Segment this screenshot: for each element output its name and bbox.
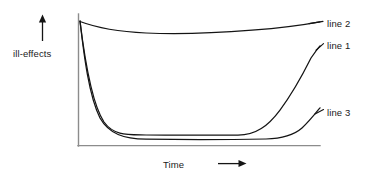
series-label-line-3: line 3 (327, 107, 350, 118)
leader-line-2 (309, 21, 323, 23)
series-curve-line-2 (80, 22, 320, 34)
series-label-leaders (309, 21, 324, 114)
right-arrow-icon (218, 160, 247, 167)
chart-figure: ill-effects Time line 2 line 1 line 3 (0, 0, 374, 181)
series-label-line-2: line 2 (327, 18, 350, 29)
series-curve-line-3 (80, 21, 320, 140)
series-curve-line-1 (80, 21, 320, 135)
y-axis-label: ill-effects (13, 48, 51, 59)
x-axis-label: Time (163, 159, 184, 170)
chart-canvas (0, 0, 374, 181)
up-arrow-icon (39, 15, 46, 41)
series-label-line-1: line 1 (327, 40, 350, 51)
leader-line-1 (316, 44, 324, 51)
